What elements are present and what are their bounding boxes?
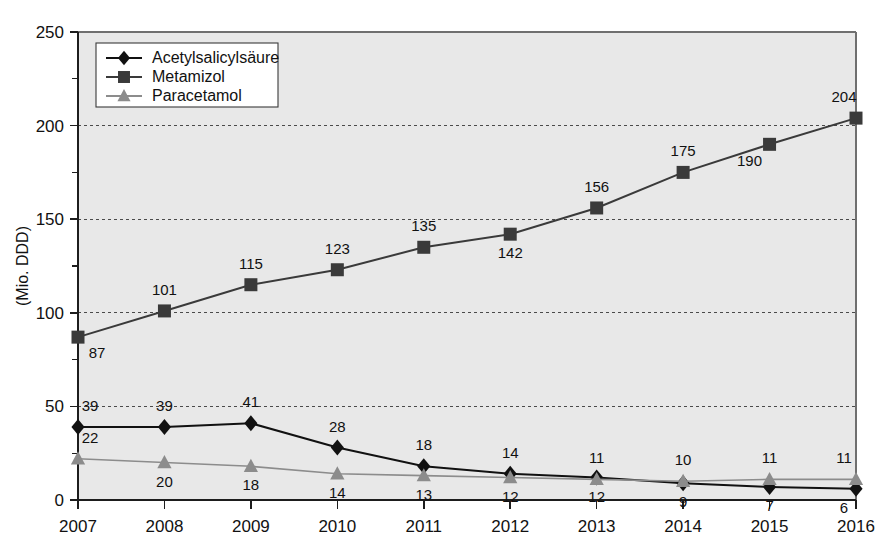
line-chart: 050100150200250 200720082009201020112012… bbox=[0, 0, 880, 543]
data-label: 190 bbox=[737, 152, 762, 169]
square-marker bbox=[72, 331, 85, 344]
data-label: 13 bbox=[415, 486, 432, 503]
data-label: 18 bbox=[243, 476, 260, 493]
data-label: 39 bbox=[156, 397, 173, 414]
data-label: 12 bbox=[588, 488, 605, 505]
data-label: 142 bbox=[498, 244, 523, 261]
y-tick-label: 50 bbox=[45, 397, 64, 416]
x-tick-label: 2008 bbox=[146, 517, 184, 536]
data-label: 135 bbox=[411, 217, 436, 234]
data-label: 14 bbox=[502, 444, 519, 461]
data-label: 204 bbox=[831, 88, 856, 105]
square-marker bbox=[417, 241, 430, 254]
x-tick-label: 2010 bbox=[318, 517, 356, 536]
x-tick-label: 2012 bbox=[491, 517, 529, 536]
y-tick-label: 200 bbox=[36, 117, 64, 136]
y-tick-label: 0 bbox=[55, 491, 64, 510]
legend-label: Paracetamol bbox=[152, 87, 242, 104]
data-label: 123 bbox=[325, 240, 350, 257]
square-marker bbox=[244, 278, 257, 291]
x-tick-label: 2009 bbox=[232, 517, 270, 536]
data-label: 20 bbox=[156, 473, 173, 490]
y-tick-label: 100 bbox=[36, 304, 64, 323]
data-label: 11 bbox=[589, 449, 605, 466]
data-label: 28 bbox=[329, 418, 346, 435]
data-label: 156 bbox=[584, 178, 609, 195]
square-marker bbox=[158, 304, 171, 317]
data-label: 9 bbox=[679, 493, 687, 510]
data-label: 115 bbox=[239, 255, 263, 272]
x-tick-label: 2015 bbox=[751, 517, 789, 536]
x-tick-label: 2011 bbox=[405, 517, 442, 536]
data-label: 6 bbox=[840, 499, 848, 516]
square-marker bbox=[504, 228, 517, 241]
square-marker bbox=[118, 71, 130, 83]
data-label: 87 bbox=[89, 344, 106, 361]
data-label: 12 bbox=[502, 488, 519, 505]
square-marker bbox=[590, 201, 603, 214]
data-label: 101 bbox=[152, 281, 177, 298]
y-axis-title-text: (Mio. DDD) bbox=[14, 226, 31, 306]
y-tick-label: 250 bbox=[36, 23, 64, 42]
square-marker bbox=[850, 112, 863, 125]
data-label: 11 bbox=[762, 449, 778, 466]
x-tick-label: 2016 bbox=[837, 517, 875, 536]
data-label: 22 bbox=[82, 429, 99, 446]
y-tick-label: 150 bbox=[36, 210, 64, 229]
data-label: 14 bbox=[329, 484, 346, 501]
square-marker bbox=[763, 138, 776, 151]
data-label: 11 bbox=[836, 449, 852, 466]
data-label: 10 bbox=[675, 451, 692, 468]
data-label: 175 bbox=[671, 142, 696, 159]
data-label: 18 bbox=[415, 436, 432, 453]
chart-legend: AcetylsalicylsäureMetamizolParacetamol bbox=[96, 43, 279, 107]
data-label: 41 bbox=[243, 393, 260, 410]
x-tick-label: 2013 bbox=[578, 517, 616, 536]
square-marker bbox=[677, 166, 690, 179]
x-tick-label: 2014 bbox=[664, 517, 702, 536]
x-tick-label: 2007 bbox=[59, 517, 97, 536]
data-label: 39 bbox=[82, 397, 99, 414]
legend-label: Metamizol bbox=[152, 68, 225, 85]
y-axis-title: (Mio. DDD) bbox=[14, 226, 31, 306]
square-marker bbox=[331, 263, 344, 276]
data-label: 7 bbox=[765, 497, 773, 514]
legend-label: Acetylsalicylsäure bbox=[152, 49, 279, 66]
chart-container: 050100150200250 200720082009201020112012… bbox=[0, 0, 880, 543]
